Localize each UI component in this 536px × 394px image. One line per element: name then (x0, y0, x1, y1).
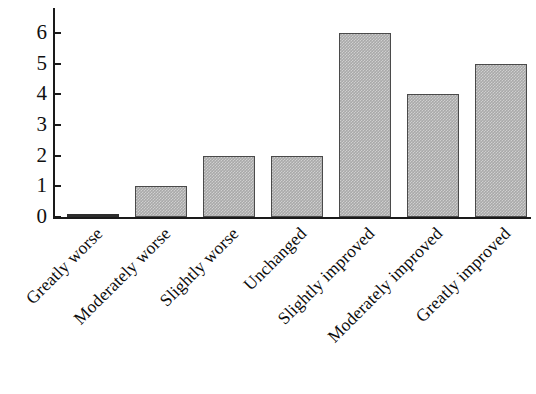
y-tick-label: 5 (17, 53, 47, 74)
y-tick-label-wrap: 3 (6, 114, 47, 135)
bar (135, 186, 187, 217)
y-tick-label-wrap: 6 (6, 22, 47, 43)
y-tick-label: 6 (17, 22, 47, 43)
y-tick-label-wrap: 2 (6, 145, 47, 166)
y-tick-label-wrap: 1 (6, 175, 47, 196)
x-axis-label: Unchanged (240, 224, 310, 294)
bar (271, 156, 323, 217)
y-tick-label: 2 (17, 145, 47, 166)
bar (475, 64, 527, 217)
y-tick-label: 0 (17, 206, 47, 227)
bar-chart: 0123456 Greatly worseModerately worseSli… (0, 0, 536, 394)
bar (407, 94, 459, 217)
plot-area (53, 8, 530, 217)
y-tick-label-wrap: 0 (6, 206, 47, 227)
y-tick-label-wrap: 4 (6, 83, 47, 104)
bar (203, 156, 255, 217)
y-tick-label: 1 (17, 175, 47, 196)
x-axis-label: Moderately improved (324, 224, 446, 346)
bar (67, 214, 119, 217)
bar (339, 33, 391, 217)
x-axis-line (53, 217, 531, 219)
y-tick-label: 4 (17, 83, 47, 104)
y-tick-label: 3 (17, 114, 47, 135)
y-tick-label-wrap: 5 (6, 53, 47, 74)
